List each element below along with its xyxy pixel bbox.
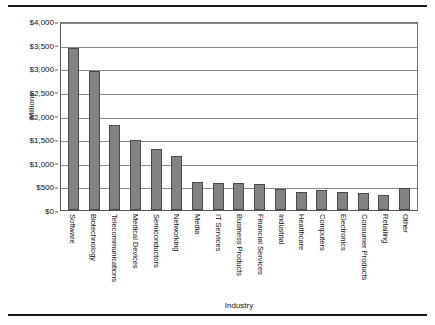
bar [89,71,100,210]
x-axis-title: Industry [60,301,418,310]
bar [358,193,369,210]
x-tick-label: Retailing [380,214,389,243]
y-tick-label: $2,000 [30,112,54,121]
x-tick: Other [400,212,411,300]
y-tick-label: $0 [45,207,54,216]
x-tick: Medical Devices [129,212,140,300]
x-tick-label: Industrial [276,214,285,244]
bar [130,140,141,210]
bar [316,190,327,210]
x-tick-label: Biotechnology [89,214,98,261]
x-tick-label: IT Services [214,214,223,251]
y-tick-label: $1,000 [30,159,54,168]
bar [399,188,410,210]
y-tick-mark [55,117,58,118]
y-tick-label: $500 [36,183,54,192]
x-tick: Industrial [275,212,286,300]
x-tick-label: Consumer Products [359,214,368,280]
y-tick-label: $3,500 [30,41,54,50]
x-tick-label: Networking [172,214,181,252]
bar [109,125,120,210]
x-tick: Software [67,212,78,300]
y-tick-mark [55,69,58,70]
x-tick: Business Products [233,212,244,300]
x-tick: Networking [171,212,182,300]
x-tick-label: Business Products [234,214,243,276]
y-tick-mark [55,93,58,94]
y-tick-mark [55,164,58,165]
x-tick: Financial Services [254,212,265,300]
x-tick-label: Software [68,214,77,244]
bar [68,48,79,210]
y-tick-label: $2,500 [30,88,54,97]
plot-area [60,22,418,211]
x-tick-label: Other [401,214,410,233]
y-tick-mark [55,46,58,47]
y-tick-label: $4,000 [30,18,54,27]
bar [337,192,348,210]
y-tick-mark [55,140,58,141]
bar-series [61,23,417,210]
x-tick: IT Services [213,212,224,300]
y-tick-mark [55,187,58,188]
y-tick-label: $3,000 [30,65,54,74]
x-tick: Consumer Products [358,212,369,300]
x-tick: Semiconductors [150,212,161,300]
x-tick-label: Healthcare [297,214,306,250]
y-tick-mark [55,22,58,23]
top-rule [8,5,427,7]
x-tick: Media [192,212,203,300]
x-tick-label: Semiconductors [151,214,160,268]
y-axis-ticks: $4,000$3,500$3,000$2,500$2,000$1,500$1,0… [14,22,58,211]
x-tick: Biotechnology [88,212,99,300]
y-tick-mark [55,211,58,212]
x-axis-ticks: SoftwareBiotechnologyTelecommunicationsM… [60,212,418,300]
x-tick: Electronics [337,212,348,300]
x-tick-label: Electronics [338,214,347,251]
chart-figure: Millions $4,000$3,500$3,000$2,500$2,000$… [0,0,435,325]
bottom-rule [8,314,427,316]
bar [233,183,244,210]
bar [296,192,307,210]
x-tick-label: Media [193,214,202,234]
bar [275,189,286,210]
bar [213,183,224,210]
bar [254,184,265,210]
x-tick-label: Computers [318,214,327,251]
x-tick: Computers [317,212,328,300]
x-tick-label: Telecommunications [110,214,119,282]
x-tick-label: Financial Services [255,214,264,275]
bar [171,156,182,210]
x-tick-label: Medical Devices [130,214,139,269]
y-tick-label: $1,500 [30,136,54,145]
x-tick: Telecommunications [109,212,120,300]
bar [378,195,389,210]
bar [151,149,162,210]
bar [192,182,203,210]
x-tick: Healthcare [296,212,307,300]
x-tick: Retailing [379,212,390,300]
